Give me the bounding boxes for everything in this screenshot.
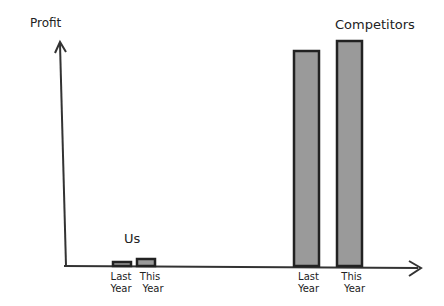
group-label-competitors: Competitors	[335, 17, 415, 32]
bar-competitors-last-year	[294, 51, 319, 266]
tick-label-competitors-this-year: ThisYear	[340, 271, 366, 294]
y-axis	[60, 44, 66, 266]
bar-us-this-year	[137, 259, 155, 266]
y-axis-label: Profit	[30, 16, 62, 30]
bar-us-last-year	[113, 262, 131, 266]
group-label-us: Us	[124, 231, 141, 246]
profit-chart: Profit UsLastYearThisYearCompetitorsLast…	[0, 0, 444, 306]
tick-label-competitors-last-year: LastYear	[297, 271, 320, 294]
tick-label-us-last-year: LastYear	[109, 271, 132, 294]
tick-label-us-this-year: ThisYear	[139, 271, 165, 294]
bar-competitors-this-year	[337, 41, 362, 266]
